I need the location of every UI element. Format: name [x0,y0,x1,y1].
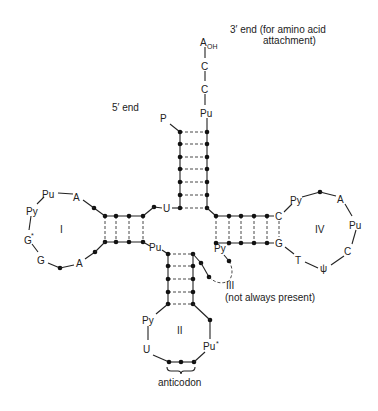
loop-iv-base-pu: Pu [349,220,361,231]
loop-iv-base-a: A [337,194,344,205]
five-prime-end-label: 5′ end [112,102,139,113]
variable-loop-note: (not always present) [225,292,315,303]
base-u-junction: U [163,203,170,214]
loop-iii [193,254,232,283]
loop-i-base-a-top: A [73,192,80,203]
loop-iv-base-t: T [295,255,301,266]
loop-iv-base-psi: ψ [320,263,327,274]
loop-i-base-pu: Pu [42,189,54,200]
anticodon-label: anticodon [158,377,201,388]
acceptor-stem [178,130,210,211]
loop-i-base-g: G [37,255,45,266]
base-a-terminal: A [200,37,207,48]
loop-iv-base-c: C [344,246,351,257]
loop-i-label: I [60,224,63,235]
trna-cloverleaf-diagram: A OH C C Pu 3′ end (for amino acid attac… [0,0,378,411]
three-prime-end-label: 3′ end (for amino acid [230,24,326,35]
loop-iv-base-py: Py [290,195,302,206]
t-stem-base-c: C [275,211,282,222]
loop-iii-label: III [226,280,234,291]
anticodon-stem [166,252,196,307]
d-stem [103,214,146,245]
loop-ii-base-pu-modified: Pu [203,341,215,352]
loop-iv-label: IV [315,224,325,235]
anticodon-brace [167,367,195,374]
modified-asterisk: * [31,232,34,239]
loop-ii-label: II [177,325,183,336]
oh-subscript: OH [207,43,218,50]
base-c1: C [201,61,208,72]
base-pu-acceptor: Pu [200,108,212,119]
phosphate-label: P [160,113,167,124]
three-prime-end-label-line2: attachment) [263,35,316,46]
loop-ii-base-u: U [143,344,150,355]
base-c2: C [201,84,208,95]
modified-asterisk: * [216,340,219,347]
loop-ii-base-py: Py [142,315,154,326]
base-pu-junction: Pu [149,242,161,253]
loop-i-base-py: Py [26,206,38,217]
loop-i-base-a-bottom: A [76,258,83,269]
t-stem [214,214,279,246]
t-stem-base-g: G [275,238,283,249]
